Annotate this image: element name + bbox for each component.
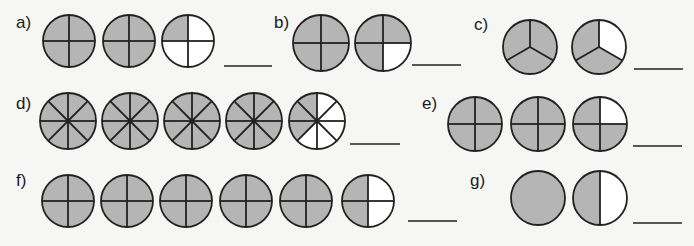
fraction-circle [164,93,220,149]
fraction-circle [220,175,272,227]
fraction-circle [280,175,332,227]
problem-a [43,15,272,67]
fraction-circle [503,20,557,74]
problem-d [40,93,400,149]
fraction-circle [572,20,626,74]
problem-c [503,20,683,74]
fraction-circle [342,175,394,227]
fraction-circle [573,97,627,151]
shaded-sector [573,171,600,225]
fraction-circle [40,93,96,149]
fraction-circle [511,97,565,151]
problem-label: d) [16,95,31,112]
fraction-circle [289,93,345,149]
fraction-circle [355,15,411,71]
fraction-circles-canvas [0,0,694,246]
problem-label: f) [16,172,26,189]
fraction-circle [573,171,627,225]
problem-g [511,171,682,225]
problem-label: a) [16,14,31,31]
fraction-circle [226,93,282,149]
problem-f [42,175,457,227]
fraction-circle [160,175,212,227]
fraction-circle [293,15,349,71]
fraction-circle [511,171,565,225]
problem-e [448,97,682,151]
problem-label: c) [474,16,488,33]
fraction-circle [103,15,155,67]
problem-label: e) [422,95,437,112]
fraction-circle [448,97,502,151]
fraction-circle [162,15,214,67]
fraction-circle [102,93,158,149]
problem-label: b) [274,14,289,31]
problem-label: g) [470,172,485,189]
fraction-circle [43,15,95,67]
fraction-circle [101,175,153,227]
problem-b [293,15,461,71]
fraction-circle [42,175,94,227]
